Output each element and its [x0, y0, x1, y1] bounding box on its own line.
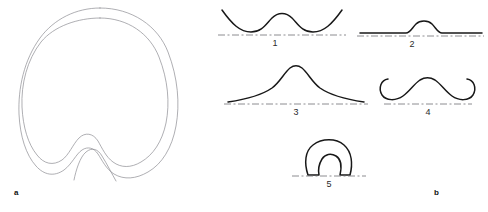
- panel-a: a: [0, 0, 210, 212]
- profile-2-group: [357, 21, 484, 36]
- profile-1-number: 1: [265, 39, 285, 48]
- profile-3-group: [224, 66, 368, 104]
- profile-1-group: [218, 10, 346, 35]
- profile-double-valley-curve: [222, 10, 342, 32]
- profile-peaked-tails-curve: [228, 66, 364, 102]
- profile-5-group: [292, 140, 366, 176]
- panel-a-label: a: [14, 189, 18, 197]
- outer-contour: [19, 8, 178, 178]
- profile-3-number: 3: [286, 108, 306, 117]
- profile-flat-with-bump-curve: [360, 21, 482, 33]
- basal-notch: [74, 149, 116, 181]
- profile-5-number: 5: [319, 180, 339, 189]
- profile-4-group: [380, 78, 475, 104]
- panel-a-drawing: [0, 0, 210, 212]
- profile-2-number: 2: [402, 40, 422, 49]
- profile-4-number: 4: [418, 108, 438, 117]
- panel-b: 1 2 3 4 5 b: [210, 0, 488, 212]
- panel-b-label: b: [434, 189, 439, 197]
- inner-contour: [22, 18, 168, 167]
- profile-moustache-curve: [380, 78, 475, 100]
- profile-closed-arch-curve: [306, 140, 352, 175]
- panel-b-drawing: [210, 0, 488, 212]
- figure-root: a: [0, 0, 488, 212]
